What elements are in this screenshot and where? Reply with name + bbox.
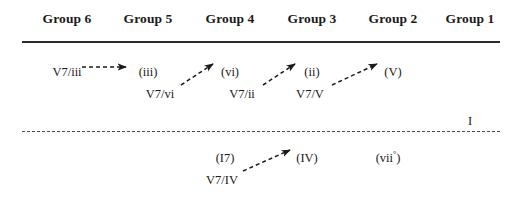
arrow-v7vi-to-vi [181, 64, 213, 85]
chord-label-v7-of-ii: V7/ii [229, 88, 255, 101]
group-header-label: Group 1 [446, 11, 495, 27]
chord-label-ii: (ii) [304, 66, 319, 79]
header-rule [22, 41, 500, 43]
chord-label-tonic: I [468, 115, 472, 128]
group-header-label: Group 4 [206, 11, 255, 27]
group-header-label: Group 5 [124, 11, 173, 27]
group-header-label: Group 3 [288, 11, 337, 27]
group-header-label: Group 2 [369, 11, 418, 27]
chord-label-v7-of-IV: V7/IV [206, 174, 238, 187]
chord-label-v7-of-V: V7/V [296, 88, 324, 101]
chord-label-vi: (vi) [221, 66, 239, 79]
group-header-row: Group 6Group 5Group 4Group 3Group 2Group… [0, 11, 525, 33]
group-header-label: Group 6 [43, 11, 92, 27]
arrow-v7IV-to-IV [243, 150, 290, 171]
arrow-v7ii-to-ii [263, 64, 295, 85]
chord-label-IV: (IV) [296, 152, 318, 165]
chord-label-v7-of-vi: V7/vi [146, 88, 174, 101]
figure-canvas: Group 6Group 5Group 4Group 3Group 2Group… [0, 0, 525, 197]
chord-label-V: (V) [384, 66, 401, 79]
chord-label-iii: (iii) [139, 66, 158, 79]
chord-label-v7-of-iii: V7/iii [52, 66, 81, 79]
diminished-symbol: ° [393, 150, 396, 159]
chord-label-vii-dim: (vii°) [376, 152, 401, 165]
section-divider [22, 131, 500, 132]
arrow-v7V-to-V [332, 64, 377, 85]
chord-label-I7: (I7) [216, 152, 235, 165]
